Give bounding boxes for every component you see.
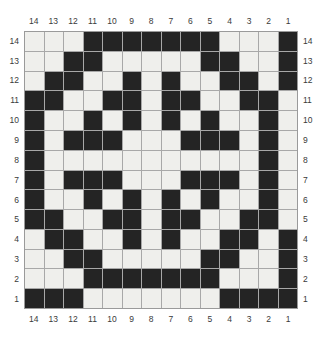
grid-cell[interactable]	[220, 171, 239, 190]
grid-cell[interactable]	[103, 250, 122, 269]
grid-cell[interactable]	[103, 151, 122, 170]
grid-cell[interactable]	[181, 190, 200, 209]
grid-cell[interactable]	[279, 32, 298, 51]
grid-cell[interactable]	[103, 72, 122, 91]
grid-cell[interactable]	[201, 111, 220, 130]
grid-cell[interactable]	[279, 111, 298, 130]
grid-cell[interactable]	[279, 269, 298, 288]
grid-cell[interactable]	[142, 131, 161, 150]
pattern-grid[interactable]	[25, 32, 297, 308]
grid-cell[interactable]	[123, 171, 142, 190]
grid-cell[interactable]	[279, 91, 298, 110]
grid-cell[interactable]	[162, 250, 181, 269]
grid-cell[interactable]	[201, 210, 220, 229]
grid-cell[interactable]	[25, 269, 44, 288]
grid-cell[interactable]	[45, 289, 64, 308]
grid-cell[interactable]	[64, 52, 83, 71]
grid-cell[interactable]	[84, 32, 103, 51]
grid-cell[interactable]	[142, 52, 161, 71]
grid-cell[interactable]	[45, 210, 64, 229]
grid-cell[interactable]	[201, 72, 220, 91]
grid-cell[interactable]	[201, 171, 220, 190]
grid-cell[interactable]	[259, 131, 278, 150]
grid-cell[interactable]	[142, 210, 161, 229]
grid-cell[interactable]	[259, 289, 278, 308]
grid-cell[interactable]	[259, 250, 278, 269]
grid-cell[interactable]	[259, 171, 278, 190]
grid-cell[interactable]	[240, 32, 259, 51]
grid-cell[interactable]	[142, 230, 161, 249]
grid-cell[interactable]	[279, 250, 298, 269]
grid-cell[interactable]	[240, 52, 259, 71]
grid-cell[interactable]	[64, 72, 83, 91]
grid-cell[interactable]	[142, 190, 161, 209]
grid-cell[interactable]	[201, 32, 220, 51]
grid-cell[interactable]	[142, 91, 161, 110]
grid-cell[interactable]	[259, 111, 278, 130]
grid-cell[interactable]	[64, 151, 83, 170]
grid-cell[interactable]	[279, 151, 298, 170]
grid-cell[interactable]	[123, 52, 142, 71]
grid-cell[interactable]	[84, 131, 103, 150]
grid-cell[interactable]	[201, 230, 220, 249]
grid-cell[interactable]	[201, 131, 220, 150]
grid-cell[interactable]	[220, 250, 239, 269]
grid-cell[interactable]	[279, 230, 298, 249]
grid-cell[interactable]	[220, 52, 239, 71]
grid-cell[interactable]	[64, 111, 83, 130]
grid-cell[interactable]	[240, 289, 259, 308]
grid-cell[interactable]	[64, 171, 83, 190]
grid-cell[interactable]	[162, 52, 181, 71]
grid-cell[interactable]	[142, 289, 161, 308]
grid-cell[interactable]	[240, 131, 259, 150]
grid-cell[interactable]	[279, 171, 298, 190]
grid-cell[interactable]	[103, 230, 122, 249]
grid-cell[interactable]	[220, 210, 239, 229]
grid-cell[interactable]	[84, 230, 103, 249]
grid-cell[interactable]	[84, 111, 103, 130]
grid-cell[interactable]	[45, 91, 64, 110]
grid-cell[interactable]	[103, 269, 122, 288]
grid-cell[interactable]	[259, 230, 278, 249]
grid-cell[interactable]	[25, 230, 44, 249]
grid-cell[interactable]	[201, 52, 220, 71]
grid-cell[interactable]	[123, 210, 142, 229]
grid-cell[interactable]	[142, 32, 161, 51]
grid-cell[interactable]	[25, 131, 44, 150]
grid-cell[interactable]	[240, 151, 259, 170]
grid-cell[interactable]	[84, 289, 103, 308]
grid-cell[interactable]	[64, 190, 83, 209]
grid-cell[interactable]	[201, 250, 220, 269]
grid-cell[interactable]	[181, 131, 200, 150]
grid-cell[interactable]	[142, 250, 161, 269]
grid-cell[interactable]	[103, 111, 122, 130]
grid-cell[interactable]	[240, 171, 259, 190]
grid-cell[interactable]	[162, 269, 181, 288]
grid-cell[interactable]	[240, 91, 259, 110]
grid-cell[interactable]	[45, 250, 64, 269]
grid-cell[interactable]	[103, 289, 122, 308]
grid-cell[interactable]	[25, 171, 44, 190]
grid-cell[interactable]	[64, 32, 83, 51]
grid-cell[interactable]	[259, 210, 278, 229]
grid-cell[interactable]	[25, 91, 44, 110]
grid-cell[interactable]	[259, 72, 278, 91]
grid-cell[interactable]	[142, 111, 161, 130]
grid-cell[interactable]	[181, 230, 200, 249]
grid-cell[interactable]	[162, 151, 181, 170]
grid-cell[interactable]	[142, 269, 161, 288]
grid-cell[interactable]	[25, 32, 44, 51]
grid-cell[interactable]	[220, 190, 239, 209]
grid-cell[interactable]	[279, 72, 298, 91]
grid-cell[interactable]	[45, 171, 64, 190]
grid-cell[interactable]	[123, 289, 142, 308]
grid-cell[interactable]	[103, 52, 122, 71]
grid-cell[interactable]	[103, 210, 122, 229]
grid-cell[interactable]	[123, 190, 142, 209]
grid-cell[interactable]	[220, 91, 239, 110]
grid-cell[interactable]	[162, 32, 181, 51]
grid-cell[interactable]	[181, 52, 200, 71]
grid-cell[interactable]	[64, 250, 83, 269]
grid-cell[interactable]	[25, 52, 44, 71]
grid-cell[interactable]	[162, 210, 181, 229]
